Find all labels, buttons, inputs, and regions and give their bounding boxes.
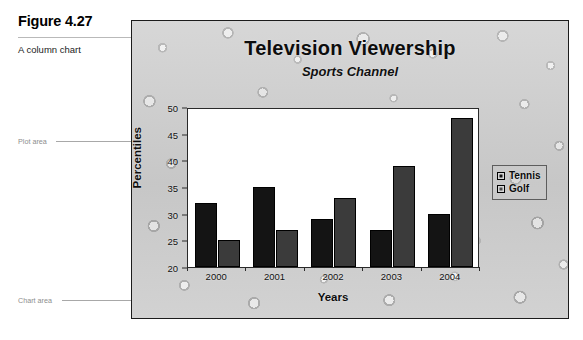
bar-golf-2003[interactable]	[393, 166, 415, 267]
y-tick-label-45: 45	[167, 129, 178, 140]
chart-subtitle: Sports Channel	[132, 64, 568, 79]
caption-divider	[18, 37, 131, 38]
chart-legend[interactable]: TennisGolf	[492, 165, 547, 200]
bar-group-2001	[246, 109, 304, 267]
x-tick-mark-2	[304, 267, 305, 271]
x-axis-title: Years	[187, 291, 479, 303]
figure-number: Figure 4.27	[18, 13, 92, 29]
callout-label-plot-area: Plot area	[18, 137, 47, 146]
bar-group-2002	[305, 109, 363, 267]
figure-description: A column chart	[18, 44, 133, 56]
chart-area[interactable]: Television Viewership Sports Channel 504…	[131, 20, 569, 319]
callout-label-chart-area: Chart area	[18, 296, 52, 305]
y-tick-label-20: 20	[167, 263, 178, 274]
bar-group-2000	[188, 109, 246, 267]
x-tick-mark-1	[245, 267, 246, 271]
legend-label-golf: Golf	[509, 183, 529, 194]
y-tick-label-35: 35	[167, 183, 178, 194]
legend-swatch-tennis-icon	[497, 172, 505, 180]
figure-caption-column: Figure 4.27 A column chart	[0, 0, 131, 340]
x-tick-label-2004: 2004	[439, 271, 460, 282]
x-tick-label-2002: 2002	[322, 271, 343, 282]
x-tick-label-2001: 2001	[264, 271, 285, 282]
bar-golf-2002[interactable]	[334, 198, 356, 267]
y-tick-label-30: 30	[167, 209, 178, 220]
x-tick-label-2000: 2000	[206, 271, 227, 282]
bar-golf-2004[interactable]	[451, 118, 473, 267]
x-tick-label-2003: 2003	[381, 271, 402, 282]
bar-group-2003	[363, 109, 421, 267]
bar-golf-2001[interactable]	[276, 230, 298, 267]
callout-leader-line-chart-area	[62, 300, 138, 301]
y-axis-title: Percentiles	[131, 127, 143, 188]
x-tick-mark-3	[362, 267, 363, 271]
x-axis: 20002001200220032004	[187, 271, 479, 287]
y-tick-label-25: 25	[167, 236, 178, 247]
legend-item-tennis[interactable]: Tennis	[497, 169, 540, 182]
legend-swatch-golf-icon	[497, 185, 505, 193]
legend-item-golf[interactable]: Golf	[497, 182, 540, 195]
chart-title: Television Viewership	[132, 37, 568, 60]
x-tick-mark-5	[479, 267, 480, 271]
bar-series-container	[188, 109, 478, 267]
figure-page: Figure 4.27 A column chart Plot area Cha…	[0, 0, 583, 340]
bar-tennis-2000[interactable]	[195, 203, 217, 267]
legend-label-tennis: Tennis	[509, 170, 540, 181]
bar-group-2004	[422, 109, 480, 267]
bar-tennis-2002[interactable]	[311, 219, 333, 267]
plot-area[interactable]	[187, 108, 479, 268]
bar-golf-2000[interactable]	[218, 240, 240, 267]
bar-tennis-2001[interactable]	[253, 187, 275, 267]
bar-tennis-2003[interactable]	[370, 230, 392, 267]
x-tick-mark-4	[421, 267, 422, 271]
x-tick-mark-0	[187, 267, 188, 271]
y-tick-label-50: 50	[167, 103, 178, 114]
bar-tennis-2004[interactable]	[428, 214, 450, 267]
y-tick-label-40: 40	[167, 156, 178, 167]
